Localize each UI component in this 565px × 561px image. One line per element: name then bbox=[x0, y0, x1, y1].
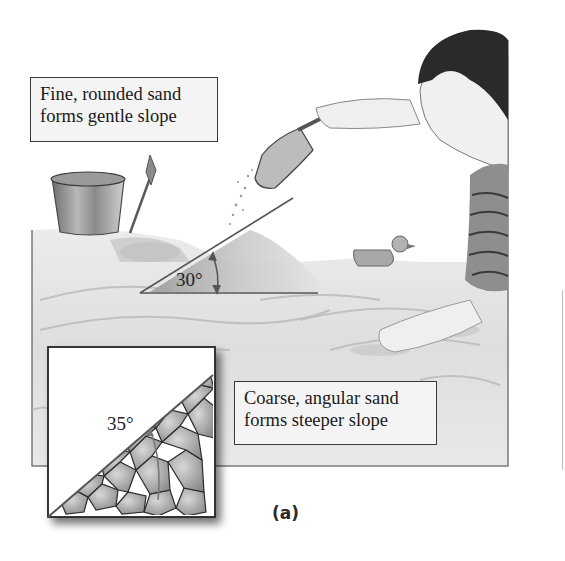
page-edge-rule bbox=[562, 290, 563, 470]
fine-sand-label-line2: forms gentle slope bbox=[40, 105, 209, 127]
coarse-sand-label-box: Coarse, angular sand forms steeper slope bbox=[234, 381, 437, 445]
angle-35-label: 35° bbox=[107, 413, 134, 435]
scoop-and-arm bbox=[255, 99, 420, 189]
fine-sand-label-box: Fine, rounded sand forms gentle slope bbox=[30, 77, 218, 142]
angle-30-label: 30° bbox=[176, 269, 203, 291]
figure-caption: (a) bbox=[272, 503, 299, 523]
bucket bbox=[51, 172, 125, 235]
coarse-sand-label-line1: Coarse, angular sand bbox=[244, 387, 428, 409]
shovel bbox=[130, 155, 156, 233]
fine-sand-label-line1: Fine, rounded sand bbox=[40, 83, 209, 105]
coarse-sand-label-line2: forms steeper slope bbox=[244, 409, 428, 431]
